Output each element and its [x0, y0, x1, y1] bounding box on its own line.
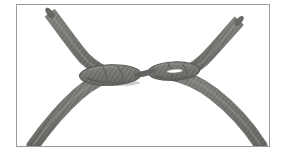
figure-frame-border — [16, 4, 270, 147]
rope-knot-photograph — [17, 5, 269, 146]
figure-root: Grey braided rope tied in a central knot… — [0, 0, 282, 156]
